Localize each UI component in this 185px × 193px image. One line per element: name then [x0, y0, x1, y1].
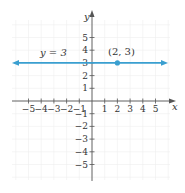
x-axis-label: x: [172, 101, 178, 112]
y-tick-label: −5: [75, 160, 89, 170]
arrow-right-icon: [161, 60, 168, 66]
x-tick-label: −3: [47, 104, 61, 114]
x-tick-label: 1: [102, 104, 108, 114]
y-tick-label: −4: [75, 147, 89, 157]
x-tick-label: −4: [35, 104, 49, 114]
data-series: [12, 60, 168, 66]
y-tick-label: 5: [82, 33, 88, 43]
y-tick-label: 4: [82, 45, 88, 55]
line-equation-label: y = 3: [39, 47, 67, 58]
x-tick-label: −2: [60, 104, 73, 114]
y-tick-label: −1: [75, 109, 88, 119]
y-tick-label: −2: [75, 121, 88, 131]
axes: [12, 10, 176, 181]
y-axis-arrow-icon: [90, 10, 95, 17]
y-tick-label: −3: [75, 134, 89, 144]
coordinate-plane-chart: −5−4−3−2−11234554321−1−2−3−4−5 y x y = 3…: [0, 0, 185, 193]
x-tick-label: 5: [153, 104, 159, 114]
x-tick-label: 4: [140, 104, 146, 114]
y-tick-label: 1: [82, 83, 88, 93]
point-label: (2, 3): [108, 46, 135, 57]
x-tick-label: 3: [127, 104, 133, 114]
grid-lines: [12, 20, 170, 180]
data-point: [115, 60, 120, 65]
y-tick-label: 2: [82, 71, 88, 81]
y-axis-label: y: [83, 11, 90, 22]
x-tick-label: −5: [22, 104, 36, 114]
x-tick-label: 2: [115, 104, 121, 114]
